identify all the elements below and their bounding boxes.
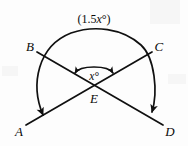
point-label-e: E — [90, 92, 98, 105]
outer-angle-label-prefix: (1.5 — [77, 12, 96, 26]
inner-angle-label: x° — [89, 71, 99, 83]
line-segment-BD — [37, 52, 163, 125]
straight-lines — [26, 52, 163, 125]
point-label-d: D — [165, 125, 175, 138]
point-label-b: B — [26, 40, 34, 53]
point-label-a: A — [15, 125, 23, 138]
outer-angle-label-suffix: °) — [102, 12, 111, 26]
outer-angle-label: (1.5x°) — [77, 13, 110, 25]
geometry-figure: B C A D E x° (1.5x°) — [0, 0, 188, 146]
point-label-c: C — [155, 40, 164, 53]
line-segment-AC — [26, 52, 152, 125]
